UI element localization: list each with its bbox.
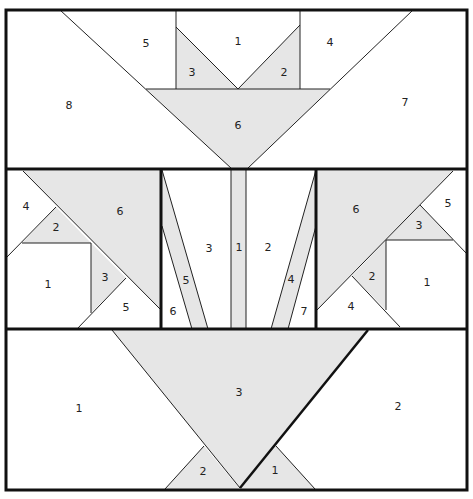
ml-label-2: 2	[53, 221, 60, 234]
mc-label-2: 2	[265, 241, 272, 254]
top-label-5: 5	[143, 37, 150, 50]
mr-label-3: 3	[416, 219, 423, 232]
ml-label-5: 5	[123, 301, 130, 314]
bottom-section: 1 2 3 2 1	[76, 330, 402, 489]
bottom-label-1: 1	[76, 402, 83, 415]
mr-label-4: 4	[348, 300, 355, 313]
bottom-label-2: 2	[395, 400, 402, 413]
mc-label-4: 4	[288, 273, 295, 286]
top-label-6: 6	[235, 119, 242, 132]
top-label-2: 2	[281, 66, 288, 79]
middle-center-section: 1 2 3 4 5 6 7	[162, 169, 316, 329]
mc-label-6: 6	[170, 305, 177, 318]
top-label-8: 8	[66, 99, 73, 112]
mc-label-1: 1	[236, 241, 243, 254]
mc-label-5: 5	[183, 274, 190, 287]
top-label-1: 1	[235, 35, 242, 48]
top-label-7: 7	[402, 96, 409, 109]
mc-label-3: 3	[206, 242, 213, 255]
ml-label-3: 3	[102, 271, 109, 284]
bottom-label-2-small: 2	[200, 465, 207, 478]
bottom-piece-3	[112, 330, 368, 488]
top-label-3: 3	[189, 66, 196, 79]
mr-label-1: 1	[424, 276, 431, 289]
ml-label-4: 4	[23, 200, 30, 213]
top-label-4: 4	[327, 36, 334, 49]
quilt-block-diagram: 1 2 3 4 5 6 7 8 4 2 6 1 3 5 1 2	[0, 0, 473, 499]
mr-label-2: 2	[369, 270, 376, 283]
bottom-label-1-small: 1	[272, 464, 279, 477]
middle-right-section: 6 5 3 2 1 4	[317, 171, 467, 327]
top-section: 1 2 3 4 5 6 7 8	[60, 10, 413, 169]
ml-label-1: 1	[45, 278, 52, 291]
middle-left-section: 4 2 6 1 3 5	[6, 171, 161, 329]
ml-label-6: 6	[117, 205, 124, 218]
mr-label-5: 5	[445, 197, 452, 210]
mc-label-7: 7	[301, 305, 308, 318]
mr-label-6: 6	[353, 203, 360, 216]
bottom-label-3: 3	[236, 386, 243, 399]
